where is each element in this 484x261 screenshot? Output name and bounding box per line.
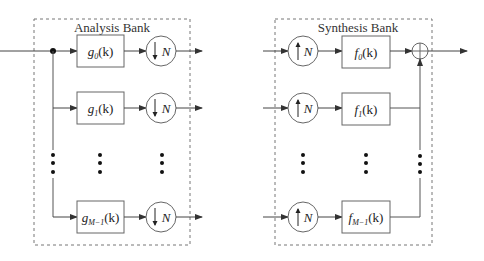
- analysis-filter-label: g1(k): [88, 101, 114, 118]
- analysis-row-1: g1(k) N: [77, 92, 202, 124]
- decimator-label: N: [161, 44, 172, 59]
- expander-label: N: [303, 210, 314, 225]
- synthesis-ellipsis: [301, 153, 422, 174]
- synthesis-row-1: N f1(k): [263, 93, 420, 125]
- synthesis-filter-label: f1(k): [355, 102, 378, 119]
- analysis-filter-label: g0(k): [88, 44, 114, 61]
- synthesis-filter-label: f0(k): [355, 45, 378, 62]
- synthesis-bank: Synthesis Bank N f0(k): [263, 19, 467, 245]
- expander-label: N: [303, 44, 314, 59]
- synthesis-bank-title: Synthesis Bank: [318, 20, 399, 35]
- adder: [412, 43, 467, 217]
- decimator-label: N: [161, 210, 172, 225]
- analysis-row-M-1: gM−1(k) N: [77, 201, 202, 233]
- filter-bank-diagram: Analysis Bank g0(k) N g1(k): [0, 0, 484, 261]
- synthesis-row-M-1: N fM−1(k): [263, 201, 420, 233]
- expander-label: N: [303, 101, 314, 116]
- analysis-row-0: g0(k) N: [77, 35, 202, 67]
- analysis-bank-title: Analysis Bank: [74, 20, 151, 35]
- decimator-label: N: [161, 101, 172, 116]
- analysis-ellipsis: [51, 153, 164, 174]
- analysis-bank: Analysis Bank g0(k) N g1(k): [0, 19, 202, 245]
- synthesis-row-0: N f0(k): [263, 36, 412, 68]
